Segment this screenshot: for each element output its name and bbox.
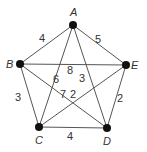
vertex-label-E: E: [131, 59, 139, 71]
edge-weight-B-C: 3: [15, 91, 21, 103]
vertex-C: [35, 123, 43, 131]
edge-weight-C-D: 4: [67, 130, 73, 142]
edge-weight-C-E: 2: [70, 88, 76, 100]
vertex-label-D: D: [103, 135, 111, 147]
vertices: [16, 21, 130, 132]
edge-C-D: [39, 127, 107, 128]
vertex-D: [103, 124, 111, 132]
edge-weight-E-D: 2: [117, 92, 123, 104]
edge-weight-A-E: 5: [95, 33, 101, 45]
edge-weight-A-D: 3: [79, 72, 85, 84]
vertex-label-A: A: [69, 6, 77, 18]
edge-weight-B-D: 7: [60, 88, 66, 100]
vertex-B: [16, 60, 24, 68]
vertex-A: [69, 21, 77, 29]
vertex-label-C: C: [35, 134, 43, 146]
edge-weight-A-B: 4: [39, 32, 45, 44]
weighted-graph-diagram: 4586372324 ABECD: [0, 0, 147, 152]
edge-weight-A-C: 6: [53, 73, 59, 85]
edge-A-B: [20, 25, 73, 64]
edge-A-E: [73, 25, 126, 65]
vertex-E: [122, 61, 130, 69]
edges: [20, 25, 126, 128]
edge-B-C: [20, 64, 39, 127]
vertex-label-B: B: [6, 58, 13, 70]
edge-weight-B-E: 8: [67, 64, 73, 76]
